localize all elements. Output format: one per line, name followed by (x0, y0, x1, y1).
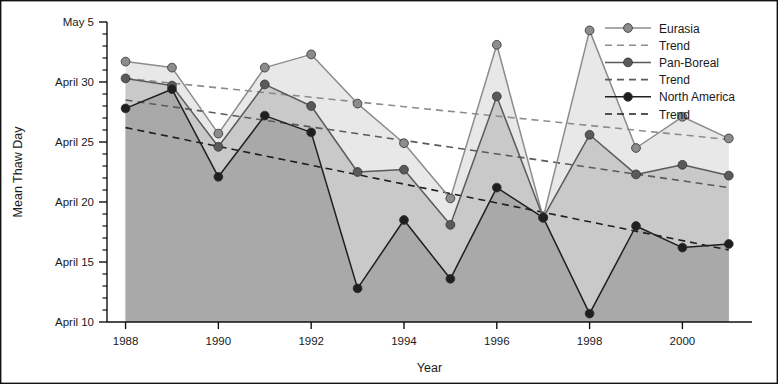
data-point-north-america[interactable] (307, 128, 316, 137)
data-point-pan-boreal[interactable] (585, 130, 594, 139)
data-point-eurasia[interactable] (214, 129, 223, 138)
y-tick-label: April 20 (55, 196, 94, 208)
data-point-north-america[interactable] (400, 216, 409, 225)
data-point-eurasia[interactable] (400, 139, 409, 148)
data-point-north-america[interactable] (353, 284, 362, 293)
data-point-eurasia[interactable] (724, 134, 733, 143)
legend-label: North America (659, 90, 735, 104)
x-tick-label: 1994 (391, 335, 417, 347)
data-point-eurasia[interactable] (632, 144, 641, 153)
x-axis-title: Year (417, 361, 442, 375)
legend-swatch-marker (624, 92, 633, 101)
y-tick-label: April 15 (55, 256, 94, 268)
y-tick-label: April 10 (55, 316, 94, 328)
data-point-eurasia[interactable] (168, 63, 177, 72)
data-point-north-america[interactable] (446, 274, 455, 283)
chart-canvas: April 10April 15April 20April 25April 30… (0, 0, 778, 384)
x-tick-label: 2000 (670, 335, 696, 347)
y-tick-label: April 30 (55, 76, 94, 88)
data-point-north-america[interactable] (539, 213, 548, 222)
data-point-north-america[interactable] (214, 172, 223, 181)
data-point-pan-boreal[interactable] (400, 165, 409, 174)
data-point-pan-boreal[interactable] (492, 92, 501, 101)
data-point-pan-boreal[interactable] (632, 170, 641, 179)
y-tick-label: May 5 (63, 16, 94, 28)
legend-label: Pan-Boreal (659, 56, 719, 70)
data-point-eurasia[interactable] (585, 26, 594, 35)
data-point-eurasia[interactable] (260, 63, 269, 72)
data-point-eurasia[interactable] (307, 50, 316, 59)
y-tick-label: April 25 (55, 136, 94, 148)
data-point-north-america[interactable] (260, 111, 269, 120)
legend-swatch-marker (624, 24, 633, 33)
data-point-pan-boreal[interactable] (353, 168, 362, 177)
data-point-pan-boreal[interactable] (724, 171, 733, 180)
legend-label: Trend (659, 39, 690, 53)
data-point-pan-boreal[interactable] (678, 160, 687, 169)
data-point-pan-boreal[interactable] (260, 80, 269, 89)
data-point-north-america[interactable] (632, 222, 641, 231)
data-point-north-america[interactable] (724, 240, 733, 249)
x-tick-label: 1992 (298, 335, 324, 347)
x-tick-label: 1988 (113, 335, 139, 347)
x-tick-label: 1998 (577, 335, 603, 347)
data-point-pan-boreal[interactable] (214, 142, 223, 151)
data-point-pan-boreal[interactable] (307, 102, 316, 111)
y-axis-title: Mean Thaw Day (11, 126, 25, 218)
legend-label: Trend (659, 73, 690, 87)
data-point-eurasia[interactable] (121, 57, 130, 66)
x-tick-label: 1990 (206, 335, 232, 347)
legend-label: Eurasia (659, 22, 700, 36)
data-point-north-america[interactable] (678, 243, 687, 252)
data-point-north-america[interactable] (121, 104, 130, 113)
data-point-eurasia[interactable] (492, 40, 501, 49)
x-tick-label: 1996 (484, 335, 510, 347)
legend-label: Trend (659, 108, 690, 122)
data-point-north-america[interactable] (492, 183, 501, 192)
data-point-north-america[interactable] (168, 85, 177, 94)
data-point-eurasia[interactable] (353, 99, 362, 108)
data-point-pan-boreal[interactable] (446, 220, 455, 229)
data-point-pan-boreal[interactable] (121, 74, 130, 83)
data-point-north-america[interactable] (585, 309, 594, 318)
data-point-eurasia[interactable] (446, 194, 455, 203)
thaw-day-chart: April 10April 15April 20April 25April 30… (0, 0, 778, 384)
legend-swatch-marker (624, 58, 633, 67)
